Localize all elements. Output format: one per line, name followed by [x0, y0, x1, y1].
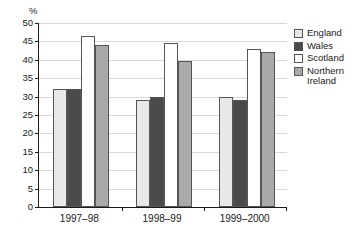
bar	[178, 61, 192, 207]
legend-item-label: Scotland	[307, 53, 344, 64]
y-tick-label: 50	[22, 18, 33, 28]
bar	[136, 100, 150, 207]
x-category-label: 1999–2000	[220, 213, 270, 224]
bar	[150, 97, 164, 207]
bar-chart-figure: % 05101520253035404550 1997–981998–99199…	[0, 0, 353, 235]
x-category-label: 1997–98	[60, 213, 99, 224]
bar	[219, 97, 233, 207]
bar	[233, 100, 247, 207]
bars-layer	[40, 23, 287, 207]
y-tick-mark	[35, 97, 39, 98]
legend-item-label: Wales	[307, 41, 333, 52]
bar	[261, 52, 275, 207]
plot-area: 05101520253035404550	[38, 23, 286, 208]
legend-item[interactable]: England	[294, 28, 353, 39]
y-tick-mark	[35, 133, 39, 134]
y-tick-label: 5	[28, 184, 33, 194]
y-axis-unit-label: %	[29, 6, 37, 16]
legend-item[interactable]: Wales	[294, 41, 353, 52]
bar	[247, 49, 261, 207]
bar	[81, 36, 95, 207]
y-tick-label: 10	[22, 165, 33, 175]
y-tick-mark	[35, 78, 39, 79]
y-tick-label: 35	[22, 73, 33, 83]
legend-swatch-icon	[294, 54, 303, 63]
y-tick-mark	[35, 60, 39, 61]
bar-group	[40, 23, 123, 207]
y-tick-label: 20	[22, 128, 33, 138]
bar	[164, 43, 178, 207]
y-tick-mark	[35, 207, 39, 208]
plot-wrapper: 05101520253035404550 1997–981998–991999–…	[38, 23, 286, 208]
y-tick-mark	[35, 23, 39, 24]
legend-swatch-icon	[294, 42, 303, 51]
chart-legend: EnglandWalesScotlandNorthern Ireland	[294, 28, 353, 89]
y-tick-mark	[35, 189, 39, 190]
y-tick-mark	[35, 41, 39, 42]
y-tick-label: 0	[28, 202, 33, 212]
y-tick-mark	[35, 170, 39, 171]
legend-item[interactable]: Northern Ireland	[294, 66, 353, 87]
y-tick-label: 30	[22, 92, 33, 102]
y-tick-label: 15	[22, 147, 33, 157]
y-tick-label: 25	[22, 110, 33, 120]
legend-swatch-icon	[294, 67, 303, 76]
x-tick-separator	[204, 207, 205, 211]
bar-group	[205, 23, 288, 207]
x-tick-separator	[286, 207, 287, 211]
bar	[95, 45, 109, 207]
x-category-label: 1998–99	[143, 213, 182, 224]
y-tick-label: 40	[22, 55, 33, 65]
bar	[53, 89, 67, 207]
y-tick-mark	[35, 115, 39, 116]
legend-swatch-icon	[294, 29, 303, 38]
bar	[67, 89, 81, 207]
legend-item-label: Northern Ireland	[307, 66, 344, 87]
legend-item-label: England	[307, 28, 342, 39]
x-tick-separator	[122, 207, 123, 211]
y-tick-mark	[35, 152, 39, 153]
y-tick-label: 45	[22, 36, 33, 46]
legend-item[interactable]: Scotland	[294, 53, 353, 64]
bar-group	[123, 23, 206, 207]
